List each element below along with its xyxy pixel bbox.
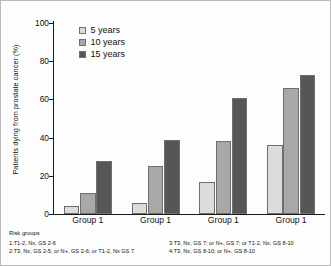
x-tick-label-group-3: Group 1 — [190, 215, 258, 225]
bar-15-years-group-2 — [164, 140, 180, 214]
legend-swatch-5-years — [79, 27, 86, 34]
legend-swatch-15-years — [79, 51, 86, 58]
footnote-title: Risk groups — [9, 230, 40, 236]
legend-item-15-years: 15 years — [79, 49, 125, 60]
y-tick-0: 0 — [25, 209, 49, 219]
footnote-line-1: 1:T1-2, Nx, GS 2-6 — [9, 239, 169, 247]
footnote-column-right: 3:T3, Nx, GS 7; or N+, GS 7; or T1-2, Nx… — [169, 239, 329, 255]
x-tick-label-group-4: Group 1 — [257, 215, 325, 225]
legend-label-15-years: 15 years — [90, 49, 125, 59]
bar-15-years-group-4 — [300, 75, 316, 214]
bar-5-years-group-3 — [199, 182, 215, 214]
figure-container: Patients dying from prostate cancer (%) … — [0, 0, 331, 266]
y-tick-60: 60 — [25, 94, 49, 104]
x-tick-label-group-1: Group 1 — [54, 215, 122, 225]
legend-label-5-years: 5 years — [90, 25, 120, 35]
legend: 5 years 10 years 15 years — [79, 25, 125, 61]
footnote-line-3: 3:T3, Nx, GS 7; or N+, GS 7; or T1-2, Nx… — [169, 239, 329, 247]
y-axis-tick-labels: 100 80 60 40 20 0 — [23, 23, 49, 214]
x-tick-label-group-2: Group 1 — [122, 215, 190, 225]
bar-10-years-group-4 — [283, 88, 299, 214]
legend-swatch-10-years — [79, 39, 86, 46]
y-tick-20: 20 — [25, 171, 49, 181]
y-tick-100: 100 — [25, 18, 49, 28]
y-tick-40: 40 — [25, 133, 49, 143]
bar-group — [122, 23, 190, 214]
bar-group — [257, 23, 325, 214]
bar-group — [190, 23, 258, 214]
footnote-line-4: 4:T3, Nx, GS 8-10; or N+, GS 8-10 — [169, 247, 329, 255]
legend-label-10-years: 10 years — [90, 37, 125, 47]
bar-5-years-group-1 — [64, 206, 80, 214]
footnote: Risk groups 1:T1-2, Nx, GS 2-6 2:T3, Nx,… — [1, 228, 331, 266]
bar-15-years-group-1 — [96, 161, 112, 214]
y-axis-label: Patients dying from prostate cancer (%) — [11, 25, 20, 195]
bar-15-years-group-3 — [232, 98, 248, 215]
bar-10-years-group-3 — [216, 141, 232, 214]
footnote-line-2: 2:T3, Nx, GS 2-5; or N+, GS 2-6; or T1-2… — [9, 247, 169, 255]
bar-10-years-group-1 — [80, 193, 96, 214]
bar-5-years-group-4 — [267, 145, 283, 214]
legend-item-5-years: 5 years — [79, 25, 125, 36]
plot-area: Patients dying from prostate cancer (%) … — [1, 1, 331, 223]
bar-10-years-group-2 — [148, 166, 164, 214]
footnote-column-left: 1:T1-2, Nx, GS 2-6 2:T3, Nx, GS 2-5; or … — [9, 239, 169, 255]
legend-item-10-years: 10 years — [79, 37, 125, 48]
y-tick-80: 80 — [25, 56, 49, 66]
bar-5-years-group-2 — [132, 203, 148, 214]
